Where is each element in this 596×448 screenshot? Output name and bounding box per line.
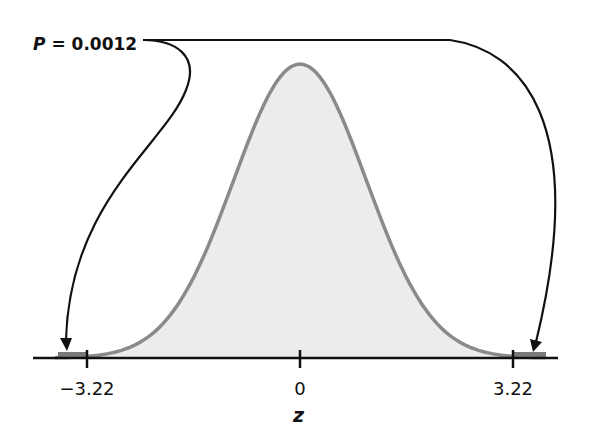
tick-label: 0 [294, 378, 305, 399]
equals-sign: = [45, 34, 71, 54]
p-value-annotation: P = 0.0012 [33, 34, 137, 54]
arrowhead-left-icon [60, 338, 72, 351]
p-symbol: P [33, 34, 45, 54]
tick-label: 3.22 [493, 378, 533, 399]
arrowhead-right-icon [530, 339, 542, 352]
tick-label: −3.22 [59, 378, 114, 399]
x-axis-label: z [293, 404, 304, 426]
p-value: 0.0012 [72, 34, 138, 54]
curve-area [55, 64, 545, 358]
arrow-to-left-tail [66, 40, 190, 340]
